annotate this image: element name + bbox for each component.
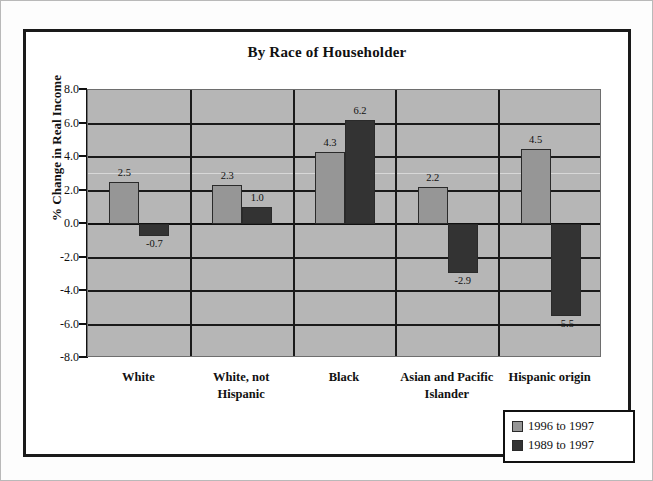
bar-0-0[interactable] bbox=[109, 182, 139, 224]
category-divider bbox=[190, 90, 192, 356]
x-axis-category-label: White bbox=[87, 369, 190, 386]
x-axis-category-label: Black bbox=[293, 369, 396, 386]
bar-0-1[interactable] bbox=[212, 185, 242, 224]
chart-title: By Race of Householder bbox=[26, 44, 628, 61]
y-axis-tick bbox=[79, 256, 87, 258]
bar-0-4[interactable] bbox=[521, 149, 551, 224]
y-axis-tick bbox=[79, 356, 87, 358]
category-divider bbox=[395, 90, 397, 356]
bar-value-label: 1.0 bbox=[231, 192, 283, 203]
y-axis-tick-label: 6.0 bbox=[33, 115, 79, 130]
bar-value-label: -0.7 bbox=[128, 238, 180, 249]
y-axis-tick-label: 0.0 bbox=[33, 216, 79, 231]
y-axis-tick bbox=[79, 323, 87, 325]
x-axis-category-label: Asian and PacificIslander bbox=[395, 369, 498, 403]
y-axis-tick bbox=[79, 122, 87, 124]
y-axis-tick bbox=[79, 189, 87, 191]
chart-frame: By Race of Householder % Change in Real … bbox=[23, 29, 631, 457]
y-axis-tick-label: -6.0 bbox=[33, 316, 79, 331]
y-axis-tick-label: 2.0 bbox=[33, 182, 79, 197]
y-axis-labels: 8.06.04.02.00.0-2.0-4.0-6.0-8.0 bbox=[26, 32, 79, 454]
gridline bbox=[88, 324, 600, 326]
x-axis-category-label: White, notHispanic bbox=[190, 369, 293, 403]
y-axis-tick-label: -2.0 bbox=[33, 249, 79, 264]
legend-item[interactable]: 1996 to 1997 bbox=[512, 417, 626, 436]
y-axis-tick bbox=[79, 88, 87, 90]
gridline bbox=[88, 257, 600, 259]
bar-1-4[interactable] bbox=[551, 224, 581, 316]
legend-label: 1989 to 1997 bbox=[528, 438, 594, 453]
bar-value-label: 4.5 bbox=[510, 134, 562, 145]
plot-area: 2.52.34.32.24.5-0.71.06.2-2.9-5.5 bbox=[87, 89, 601, 357]
y-axis-tick bbox=[79, 155, 87, 157]
bar-1-3[interactable] bbox=[448, 224, 478, 273]
bar-value-label: 6.2 bbox=[334, 105, 386, 116]
y-axis-tick-label: -4.0 bbox=[33, 283, 79, 298]
bar-1-1[interactable] bbox=[242, 207, 272, 224]
legend-item[interactable]: 1989 to 1997 bbox=[512, 436, 626, 455]
bar-value-label: 2.3 bbox=[201, 170, 253, 181]
bar-value-label: -2.9 bbox=[437, 275, 489, 286]
bar-0-3[interactable] bbox=[418, 187, 448, 224]
legend-swatch-icon bbox=[512, 421, 523, 432]
bar-value-label: 2.5 bbox=[98, 167, 150, 178]
bar-1-2[interactable] bbox=[345, 120, 375, 224]
bar-value-label: 2.2 bbox=[407, 172, 459, 183]
y-axis-tick bbox=[79, 222, 87, 224]
legend-swatch-icon bbox=[512, 440, 523, 451]
gridline bbox=[88, 123, 600, 125]
category-divider bbox=[498, 90, 500, 356]
bar-value-label: -5.5 bbox=[540, 318, 592, 329]
legend-label: 1996 to 1997 bbox=[528, 419, 594, 434]
y-axis-tick-label: -8.0 bbox=[33, 350, 79, 365]
chart-legend: 1996 to 19971989 to 1997 bbox=[503, 410, 635, 463]
bar-1-0[interactable] bbox=[139, 224, 169, 236]
gridline bbox=[88, 290, 600, 292]
bar-0-2[interactable] bbox=[315, 152, 345, 224]
page-canvas: By Race of Householder % Change in Real … bbox=[0, 0, 653, 481]
category-divider bbox=[293, 90, 295, 356]
x-axis-category-label: Hispanic origin bbox=[498, 369, 601, 386]
y-axis-tick-label: 4.0 bbox=[33, 149, 79, 164]
y-axis-tick-label: 8.0 bbox=[33, 82, 79, 97]
y-axis-tick bbox=[79, 289, 87, 291]
